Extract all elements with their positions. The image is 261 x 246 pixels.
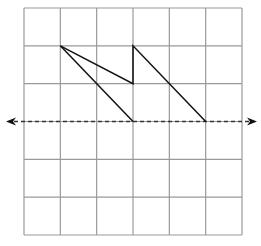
reflection-diagram [0, 0, 261, 246]
